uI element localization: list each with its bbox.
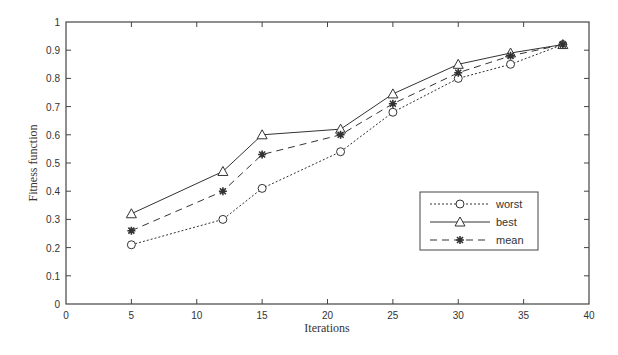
x-tick-label: 10	[191, 310, 203, 321]
circle-marker	[258, 184, 266, 192]
y-tick-label: 0.9	[46, 45, 60, 56]
legend: worstbestmean	[420, 192, 538, 250]
y-tick-label: 0.7	[46, 102, 60, 113]
y-tick-label: 0.3	[46, 214, 60, 225]
legend-label: mean	[496, 234, 524, 246]
star-marker	[507, 52, 515, 60]
series-best	[126, 40, 567, 218]
series-line-best	[131, 45, 562, 214]
legend-label: worst	[495, 198, 522, 210]
triangle-marker	[126, 209, 136, 218]
x-tick-label: 20	[322, 310, 334, 321]
triangle-marker	[388, 89, 398, 98]
x-tick-label: 15	[257, 310, 269, 321]
x-tick-label: 0	[63, 310, 69, 321]
y-tick-label: 0.5	[46, 158, 60, 169]
legend-star-icon	[456, 236, 464, 244]
line-chart: 00.10.20.30.40.50.60.70.80.91 0510152025…	[0, 0, 618, 355]
star-marker	[389, 100, 397, 108]
star-marker	[559, 41, 567, 49]
y-tick-label: 0.2	[46, 243, 60, 254]
y-tick-label: 1	[54, 17, 60, 28]
y-axis-title: Fitness function	[26, 125, 40, 202]
star-marker	[337, 131, 345, 139]
circle-marker	[127, 241, 135, 249]
x-tick-label: 30	[453, 310, 465, 321]
circle-marker	[389, 108, 397, 116]
y-tick-label: 0.4	[46, 186, 60, 197]
circle-marker	[507, 60, 515, 68]
x-tick-label: 35	[518, 310, 530, 321]
circle-marker	[337, 148, 345, 156]
y-tick-label: 0.1	[46, 271, 60, 282]
star-marker	[219, 187, 227, 195]
x-axis-title: Iterations	[304, 321, 350, 335]
star-marker	[258, 151, 266, 159]
circle-marker	[219, 215, 227, 223]
y-tick-label: 0.8	[46, 73, 60, 84]
star-marker	[127, 227, 135, 235]
x-axis: 0510152025303540	[63, 22, 595, 321]
x-tick-label: 40	[583, 310, 595, 321]
x-tick-label: 25	[387, 310, 399, 321]
y-tick-label: 0	[54, 299, 60, 310]
legend-circle-icon	[456, 200, 464, 208]
legend-label: best	[496, 216, 517, 228]
x-tick-label: 5	[129, 310, 135, 321]
y-tick-label: 0.6	[46, 130, 60, 141]
star-marker	[454, 69, 462, 77]
